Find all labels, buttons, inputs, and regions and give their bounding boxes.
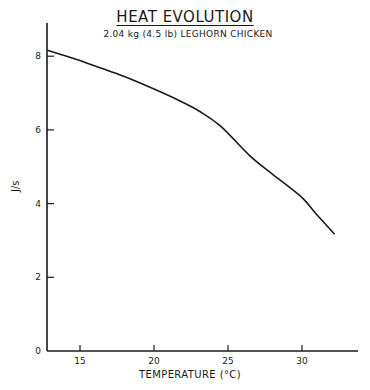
y-tick-label: 0 [35,346,41,356]
x-tick-label: 30 [296,356,308,366]
x-tick-label: 20 [148,356,160,366]
x-tick-label: 15 [74,356,85,366]
y-tick-label: 8 [35,51,41,61]
x-ticks: 15202530 [74,345,308,366]
heat-evolution-curve [47,50,334,234]
y-ticks: 02468 [35,51,54,356]
y-axis-label: J/s [10,180,21,192]
y-tick-label: 6 [35,125,41,135]
y-tick-label: 2 [35,272,41,282]
x-axis-label: TEMPERATURE (°C) [0,369,370,380]
y-tick-label: 4 [35,199,41,209]
plot-area: 02468 15202530 [0,0,370,390]
x-tick-label: 25 [222,356,233,366]
